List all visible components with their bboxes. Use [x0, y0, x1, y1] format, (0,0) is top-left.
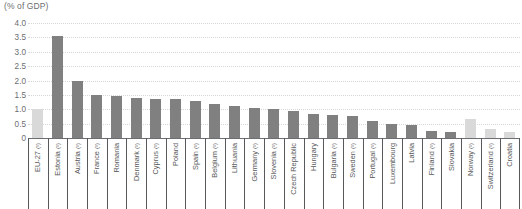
y-tick-label: 1.0 [2, 105, 26, 114]
x-tick-slot: Slovenia (¹) [264, 138, 284, 209]
x-tick-label: Germany (¹) [251, 143, 258, 181]
bar [150, 99, 161, 138]
bar-slot [146, 23, 166, 138]
x-tick-slot: Bulgaria (¹) [323, 138, 343, 209]
x-tick-label: Slovenia (¹) [271, 143, 278, 179]
bar-slot [343, 23, 363, 138]
bar-slot [323, 23, 343, 138]
x-tick-slot: Croatia [500, 138, 520, 209]
y-tick-label: 0.5 [2, 119, 26, 128]
bar [485, 129, 496, 138]
x-tick-slot: Estonia (¹) [48, 138, 68, 209]
bar-chart: (% of GDP) 00.51.01.52.02.53.03.54.0 EU-… [0, 0, 522, 209]
y-axis: 00.51.01.52.02.53.03.54.0 [0, 23, 26, 138]
y-tick-label: 1.5 [2, 90, 26, 99]
x-tick-slot: Finland (¹) [422, 138, 442, 209]
bar-slot [402, 23, 422, 138]
bar-slot [244, 23, 264, 138]
x-tick-slot: Romania [107, 138, 127, 209]
bar [209, 104, 220, 139]
bar-slot [28, 23, 48, 138]
y-axis-unit-label: (% of GDP) [4, 1, 48, 11]
x-tick-slot: Spain (¹) [185, 138, 205, 209]
x-tick-slot: Czech Republic [284, 138, 304, 209]
y-tick-label: 3.5 [2, 33, 26, 42]
bar-slot [205, 23, 225, 138]
x-tick-slot: Hungary [304, 138, 324, 209]
bar [367, 121, 378, 138]
bar [347, 116, 358, 138]
x-tick-label: Portugal (¹) [369, 143, 376, 179]
x-tick-slot: Poland [166, 138, 186, 209]
bar-series [28, 23, 520, 138]
bar [308, 114, 319, 138]
x-tick-slot: Portugal (¹) [363, 138, 383, 209]
x-tick-slot: Slovakia [441, 138, 461, 209]
x-tick-slot: Latvia [402, 138, 422, 209]
x-tick-slot: Luxembourg [382, 138, 402, 209]
x-tick-slot: Cyprus (¹) [146, 138, 166, 209]
x-tick-slot: Austria (¹) [67, 138, 87, 209]
x-tick-label: EU-27 (¹) [35, 143, 42, 172]
y-tick-label: 4.0 [2, 19, 26, 28]
bar [72, 81, 83, 139]
x-tick-label: Belgium (¹) [212, 143, 219, 178]
bar [111, 96, 122, 138]
bar [406, 125, 417, 138]
x-tick-slot: Lithuania [225, 138, 245, 209]
bar [91, 95, 102, 138]
bar-slot [107, 23, 127, 138]
x-tick-label: Spain (¹) [192, 143, 199, 170]
bar [229, 106, 240, 138]
bar [32, 109, 43, 138]
x-tick-slot: France (¹) [87, 138, 107, 209]
bar [190, 101, 201, 138]
bar-slot [362, 23, 382, 138]
bar [327, 115, 338, 138]
x-tick-label: Croatia [506, 143, 513, 167]
y-tick-label: 0 [2, 134, 26, 143]
x-tick-label: France (¹) [94, 143, 101, 174]
x-tick-slot: Sweden (¹) [343, 138, 363, 209]
bar-slot [303, 23, 323, 138]
bar [426, 131, 437, 138]
y-tick-label: 2.5 [2, 62, 26, 71]
x-tick-label: Lithuania [231, 143, 238, 173]
x-tick-slot: Germany (¹) [244, 138, 264, 209]
x-tick-label: Cyprus (¹) [153, 143, 160, 174]
bar-slot [461, 23, 481, 138]
y-tick-label: 3.0 [2, 47, 26, 56]
x-tick-slot: Denmark (¹) [126, 138, 146, 209]
bar [465, 119, 476, 138]
bar-slot [480, 23, 500, 138]
bar [268, 109, 279, 138]
x-tick-label: Poland [172, 143, 179, 166]
bar [52, 36, 63, 138]
bar-slot [500, 23, 520, 138]
bar [386, 124, 397, 138]
bar-slot [225, 23, 245, 138]
x-axis: EU-27 (¹)Estonia (¹)Austria (¹)France (¹… [28, 138, 520, 209]
bar-slot [48, 23, 68, 138]
x-tick-slot: EU-27 (¹) [28, 138, 48, 209]
x-tick-label: Austria (¹) [74, 143, 81, 174]
x-tick-label: Norway (¹) [468, 143, 475, 176]
bar-slot [284, 23, 304, 138]
bar-slot [382, 23, 402, 138]
x-tick-label: Bulgaria (¹) [330, 143, 337, 178]
x-tick-label: Hungary [310, 143, 317, 171]
x-tick-label: Latvia [409, 143, 416, 163]
x-tick-label: Luxembourg [389, 143, 396, 184]
x-tick-slot: Switzerland (¹) [481, 138, 501, 209]
bar-slot [126, 23, 146, 138]
bar [288, 111, 299, 138]
x-tick-label: Denmark (¹) [133, 143, 140, 181]
x-tick-label: Sweden (¹) [350, 143, 357, 178]
bar-slot [421, 23, 441, 138]
bar-slot [441, 23, 461, 138]
bar [170, 99, 181, 138]
bar [131, 98, 142, 138]
bar-slot [264, 23, 284, 138]
x-tick-label: Czech Republic [290, 143, 297, 195]
x-tick-label: Switzerland (¹) [487, 143, 494, 189]
